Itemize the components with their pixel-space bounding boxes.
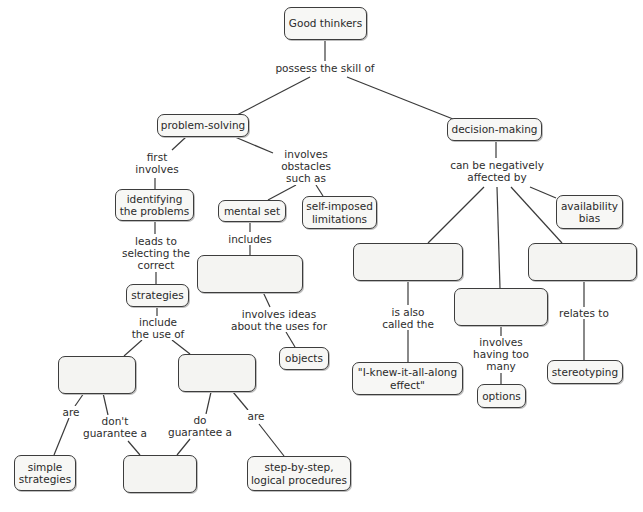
node-availability-bias[interactable]: availability bias — [556, 195, 623, 229]
node-good-thinkers[interactable]: Good thinkers — [284, 7, 367, 40]
link-relates-to: relates to — [558, 307, 610, 319]
link-too-many: involves having too many — [472, 336, 530, 373]
node-blank-decision-right[interactable] — [528, 243, 637, 281]
link-also-called: is also called the — [381, 306, 435, 330]
node-strategies[interactable]: strategies — [126, 284, 189, 307]
link-includes: includes — [227, 233, 273, 245]
node-simple-strategies[interactable]: simple strategies — [14, 455, 76, 491]
link-first-involves: first involves — [134, 151, 179, 175]
node-stereotyping[interactable]: stereotyping — [547, 360, 623, 384]
link-possess-skill: possess the skill of — [274, 62, 375, 74]
node-blank-decision-middle[interactable] — [454, 288, 548, 326]
node-self-imposed-limitations[interactable]: self-imposed limitations — [302, 196, 377, 229]
link-dont-guarantee: don't guarantee a — [82, 415, 148, 439]
node-blank-strategy-left[interactable] — [58, 356, 136, 394]
link-do-guarantee: do guarantee a — [167, 414, 233, 438]
node-identifying-problems[interactable]: identifying the problems — [115, 189, 194, 221]
link-are-left: are — [62, 406, 81, 418]
node-options[interactable]: options — [477, 384, 526, 408]
node-objects[interactable]: objects — [279, 347, 329, 370]
node-blank-strategy-right[interactable] — [178, 354, 256, 392]
node-blank-mental-set-example[interactable] — [197, 255, 303, 293]
node-decision-making[interactable]: decision-making — [447, 118, 542, 141]
node-step-by-step[interactable]: step-by-step, logical procedures — [247, 456, 351, 491]
link-are-right: are — [247, 410, 266, 422]
link-involves-obstacles: involves obstacles such as — [280, 148, 332, 185]
link-include-use-of: include the use of — [131, 316, 186, 340]
link-involves-ideas: involves ideas about the uses for — [230, 308, 328, 332]
node-blank-solution[interactable] — [123, 455, 197, 493]
link-leads-to: leads to selecting the correct — [121, 235, 191, 272]
node-problem-solving[interactable]: problem-solving — [157, 114, 249, 137]
link-negatively-affected: can be negatively affected by — [449, 159, 545, 183]
node-mental-set[interactable]: mental set — [218, 200, 286, 222]
node-blank-decision-left[interactable] — [353, 243, 463, 281]
node-i-knew-it-all-along[interactable]: "I-knew-it-all-along effect" — [352, 362, 463, 395]
